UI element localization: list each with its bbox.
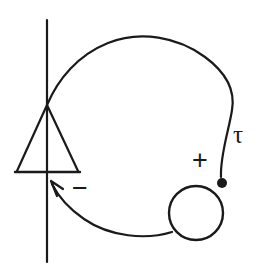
arrowhead	[51, 181, 63, 196]
figure-canvas: τ + −	[0, 0, 258, 270]
small-circle	[169, 186, 223, 240]
diagram-svg	[0, 0, 258, 270]
lower-arrow-curve	[52, 184, 172, 236]
tau-label: τ	[233, 122, 243, 147]
minus-label: −	[72, 175, 88, 202]
terminal-dot	[217, 178, 227, 188]
plus-label: +	[192, 147, 208, 174]
